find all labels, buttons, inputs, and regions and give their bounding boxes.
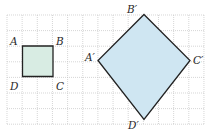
label-d-prime: D′ <box>127 119 139 131</box>
label-a: A <box>9 35 18 47</box>
label-b: B <box>55 35 64 47</box>
dilation-diagram: A B C D A′ B′ C′ D′ <box>0 0 210 132</box>
label-c: C <box>56 80 64 92</box>
label-a-prime: A′ <box>84 51 96 63</box>
square-abcd <box>23 46 54 77</box>
label-d: D <box>9 80 19 92</box>
label-c-prime: C′ <box>193 54 204 66</box>
label-b-prime: B′ <box>126 3 138 15</box>
